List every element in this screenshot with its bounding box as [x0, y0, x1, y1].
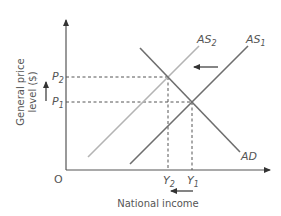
as1-label: AS1	[245, 33, 266, 48]
y2-label: Y2	[163, 174, 175, 189]
x-axis-title: National income	[117, 198, 198, 209]
ad-curve	[140, 48, 240, 152]
p2-label: P2	[52, 70, 64, 85]
y1-label: Y1	[187, 174, 199, 189]
y-axis-title-line1: General price	[15, 58, 26, 125]
origin-label: O	[54, 173, 63, 186]
as-ad-diagram: AS2 AS1 AD P2 P1 Y2 Y1 O National income…	[0, 0, 281, 216]
ad-label: AD	[240, 150, 257, 163]
as2-label: AS2	[196, 33, 217, 48]
as1-curve	[130, 46, 248, 164]
p1-label: P1	[52, 95, 64, 110]
y-axis-title-line2: level ($)	[27, 71, 38, 112]
